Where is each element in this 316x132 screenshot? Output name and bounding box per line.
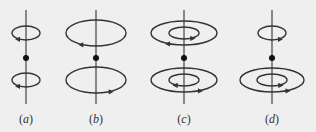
upper-arrowhead-b-0-icon bbox=[78, 42, 83, 47]
lower-arrowhead-d-0-icon bbox=[286, 88, 291, 93]
panel-label-b: (b) bbox=[76, 112, 116, 127]
current-loop-diagram: (a) (b) (c) (d) bbox=[0, 0, 316, 132]
lower-arrowhead-c-0-icon bbox=[198, 88, 203, 93]
center-dot-c bbox=[181, 55, 187, 61]
lower-arrowhead-b-0-icon bbox=[109, 89, 114, 94]
label-letter: c bbox=[181, 112, 186, 126]
center-dot-b bbox=[93, 55, 99, 61]
label-letter: b bbox=[93, 112, 99, 126]
upper-arrowhead-c-0-icon bbox=[165, 41, 170, 46]
label-letter: a bbox=[23, 112, 29, 126]
center-dot-d bbox=[269, 55, 275, 61]
center-dot-a bbox=[23, 55, 29, 61]
label-letter: d bbox=[269, 112, 275, 126]
panel-label-d: (d) bbox=[252, 112, 292, 127]
panel-label-c: (c) bbox=[164, 112, 204, 127]
panel-label-a: (a) bbox=[6, 112, 46, 127]
